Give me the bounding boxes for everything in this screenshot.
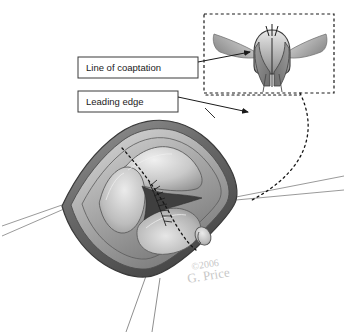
label-leading-edge-text: Leading edge <box>86 96 144 107</box>
label-leading-edge[interactable]: Leading edge <box>78 91 178 112</box>
mitral-valve-figure: Line of coaptation Leading edge ©2006 G.… <box>0 0 345 332</box>
label-line-of-coaptation[interactable]: Line of coaptation <box>78 57 198 78</box>
label-line-of-coaptation-text: Line of coaptation <box>86 62 161 73</box>
cross-section-inset <box>204 14 334 93</box>
